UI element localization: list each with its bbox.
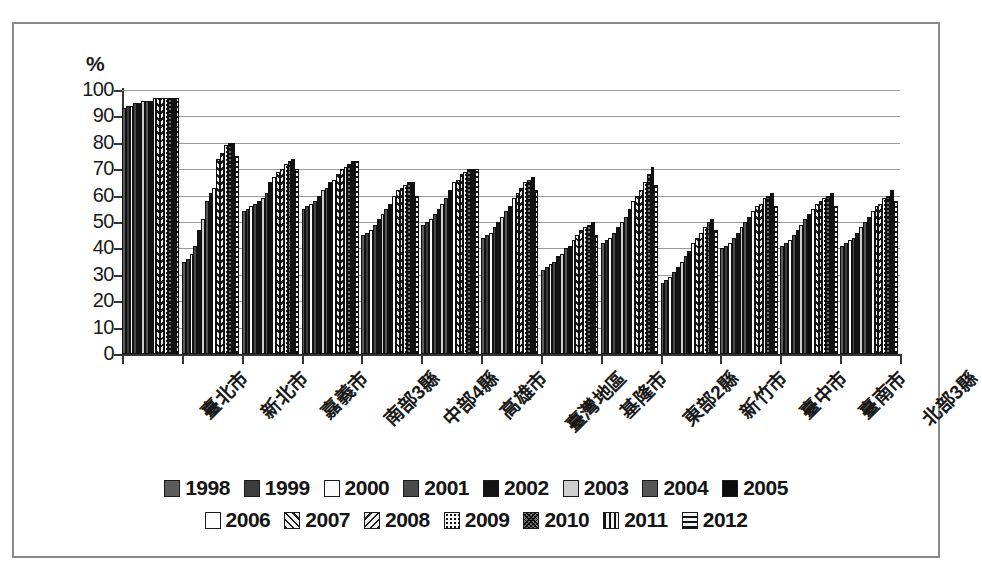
legend-label: 2009 bbox=[465, 508, 510, 532]
bar-group bbox=[122, 90, 179, 354]
bar-group bbox=[840, 90, 897, 354]
legend-item-2006[interactable]: 2006 bbox=[205, 508, 271, 532]
legend-item-2007[interactable]: 2007 bbox=[284, 508, 350, 532]
bar-group bbox=[361, 90, 418, 354]
legend-swatch-icon bbox=[284, 512, 300, 529]
legend-row-first: 19981999200020012002200320042005 bbox=[14, 476, 938, 500]
y-axis-tick-mark bbox=[114, 354, 122, 356]
bar bbox=[415, 196, 419, 354]
x-axis-tick-mark bbox=[361, 356, 363, 364]
x-axis-tick-mark bbox=[900, 356, 902, 364]
legend-label: 2004 bbox=[663, 476, 708, 500]
legend-swatch-icon bbox=[444, 512, 460, 529]
y-axis-tick-label: 10 bbox=[62, 316, 114, 339]
y-axis-tick-label: 30 bbox=[62, 263, 114, 286]
legend-label: 2006 bbox=[226, 508, 271, 532]
bar-group bbox=[242, 90, 299, 354]
y-axis-tick-mark bbox=[114, 196, 122, 198]
legend-label: 2008 bbox=[385, 508, 430, 532]
x-axis-tick-mark bbox=[541, 356, 543, 364]
bar bbox=[295, 169, 299, 354]
legend-label: 2001 bbox=[424, 476, 469, 500]
y-axis-tick-label: 60 bbox=[62, 184, 114, 207]
legend-item-2008[interactable]: 2008 bbox=[364, 508, 430, 532]
legend-item-2003[interactable]: 2003 bbox=[563, 476, 629, 500]
legend-label: 1999 bbox=[265, 476, 310, 500]
y-axis-tick-mark bbox=[114, 248, 122, 250]
bar-group bbox=[720, 90, 777, 354]
x-axis-label-1: 新北市 bbox=[254, 364, 313, 423]
bar-group bbox=[182, 90, 239, 354]
legend-item-2001[interactable]: 2001 bbox=[403, 476, 469, 500]
y-axis-tick-label: 90 bbox=[62, 104, 114, 127]
x-axis-label-11: 臺南市 bbox=[852, 364, 911, 423]
legend-swatch-icon bbox=[403, 480, 419, 497]
legend-label: 2003 bbox=[584, 476, 629, 500]
legend-item-2004[interactable]: 2004 bbox=[642, 476, 708, 500]
x-axis-line bbox=[122, 354, 902, 356]
legend-item-2010[interactable]: 2010 bbox=[523, 508, 589, 532]
bar bbox=[894, 201, 898, 354]
legend-label: 2010 bbox=[544, 508, 589, 532]
x-axis-label-3: 南部3縣 bbox=[376, 364, 443, 431]
legend-swatch-icon bbox=[523, 512, 539, 529]
y-axis-tick-label: 70 bbox=[62, 157, 114, 180]
legend-label: 2012 bbox=[703, 508, 748, 532]
chart-legend: 19981999200020012002200320042005 2006200… bbox=[14, 476, 938, 540]
legend-swatch-icon bbox=[603, 512, 619, 529]
x-axis-label-4: 中部4縣 bbox=[436, 364, 503, 431]
legend-item-2000[interactable]: 2000 bbox=[324, 476, 390, 500]
bar bbox=[595, 235, 599, 354]
x-axis-tick-mark bbox=[601, 356, 603, 364]
legend-item-2002[interactable]: 2002 bbox=[483, 476, 549, 500]
x-axis-tick-mark bbox=[122, 356, 124, 364]
legend-row-second: 2006200720082009201020112012 bbox=[14, 508, 938, 532]
legend-item-2012[interactable]: 2012 bbox=[682, 508, 748, 532]
bar-group bbox=[661, 90, 718, 354]
y-axis-tick-mark bbox=[114, 301, 122, 303]
bar-group bbox=[541, 90, 598, 354]
x-axis-tick-mark bbox=[182, 356, 184, 364]
x-axis-tick-mark bbox=[661, 356, 663, 364]
x-axis-label-0: 臺北市 bbox=[194, 364, 253, 423]
y-axis-tick-mark bbox=[114, 275, 122, 277]
x-axis-label-2: 嘉義市 bbox=[313, 364, 372, 423]
legend-label: 1998 bbox=[185, 476, 230, 500]
x-axis-tick-mark bbox=[720, 356, 722, 364]
y-axis-tick-mark bbox=[114, 222, 122, 224]
legend-swatch-icon bbox=[483, 480, 499, 497]
legend-label: 2005 bbox=[743, 476, 788, 500]
x-axis-tick-mark bbox=[242, 356, 244, 364]
legend-swatch-icon bbox=[722, 480, 738, 497]
bar-group bbox=[601, 90, 658, 354]
y-axis-tick-label: 40 bbox=[62, 236, 114, 259]
y-axis-tick-mark bbox=[114, 143, 122, 145]
bar bbox=[475, 169, 479, 354]
x-axis-category-labels: 臺北市新北市嘉義市南部3縣中部4縣高雄市臺灣地區基隆市東部2縣新竹市臺中市臺南市… bbox=[122, 360, 902, 480]
y-axis-tick-labels: 1009080706050403020100 bbox=[58, 90, 114, 354]
y-axis-tick-label: 50 bbox=[62, 210, 114, 233]
x-axis-tick-mark bbox=[481, 356, 483, 364]
legend-swatch-icon bbox=[563, 480, 579, 497]
bar bbox=[535, 190, 539, 354]
x-axis-tick-mark bbox=[840, 356, 842, 364]
bar bbox=[774, 206, 778, 354]
x-axis-label-8: 東部2縣 bbox=[676, 364, 743, 431]
bar-group bbox=[780, 90, 837, 354]
legend-item-1998[interactable]: 1998 bbox=[164, 476, 230, 500]
y-axis-tick-label: 100 bbox=[62, 78, 114, 101]
y-axis-tick-mark bbox=[114, 328, 122, 330]
legend-swatch-icon bbox=[682, 512, 698, 529]
bar bbox=[834, 206, 838, 354]
legend-label: 2000 bbox=[345, 476, 390, 500]
legend-item-1999[interactable]: 1999 bbox=[244, 476, 310, 500]
bar bbox=[654, 185, 658, 354]
legend-item-2009[interactable]: 2009 bbox=[444, 508, 510, 532]
legend-swatch-icon bbox=[164, 480, 180, 497]
legend-label: 2011 bbox=[624, 508, 668, 532]
bar bbox=[235, 156, 239, 354]
legend-item-2005[interactable]: 2005 bbox=[722, 476, 788, 500]
y-axis-tick-mark bbox=[114, 116, 122, 118]
legend-item-2011[interactable]: 2011 bbox=[603, 508, 668, 532]
y-axis-tick-label: 0 bbox=[62, 342, 114, 365]
